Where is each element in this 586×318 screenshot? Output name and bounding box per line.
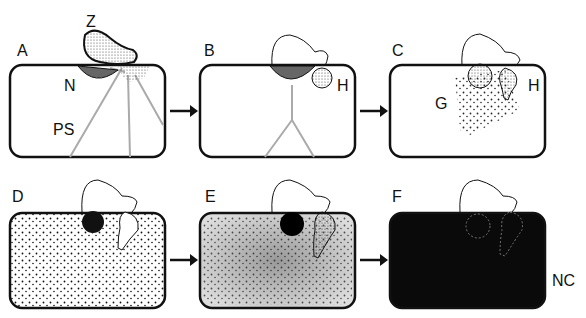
label-n: N bbox=[64, 78, 76, 94]
arrow-e-f bbox=[360, 254, 388, 266]
panel-d bbox=[10, 180, 165, 308]
label-z: Z bbox=[86, 14, 96, 30]
label-g: G bbox=[435, 96, 447, 112]
panel-label-a: A bbox=[17, 43, 28, 59]
diagram-canvas bbox=[0, 0, 586, 318]
panel-label-f: F bbox=[392, 189, 402, 205]
panel-c bbox=[390, 34, 545, 157]
arrow-d-e bbox=[170, 254, 198, 266]
panel-a bbox=[10, 31, 165, 157]
panel-e bbox=[200, 180, 355, 308]
panel-label-c: C bbox=[392, 43, 404, 59]
panel-label-b: B bbox=[204, 43, 215, 59]
label-nc: NC bbox=[552, 273, 575, 289]
label-h-c: H bbox=[528, 78, 540, 94]
arrow-b-c bbox=[360, 105, 388, 117]
label-h-b: H bbox=[337, 78, 349, 94]
panel-label-d: D bbox=[12, 189, 24, 205]
panel-label-e: E bbox=[205, 189, 216, 205]
panel-b bbox=[200, 35, 355, 157]
arrow-a-b bbox=[170, 105, 198, 117]
label-ps: PS bbox=[53, 122, 74, 138]
panel-f bbox=[390, 180, 545, 308]
